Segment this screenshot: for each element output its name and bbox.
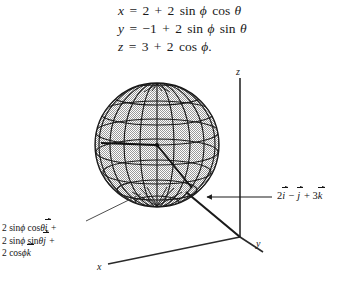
left-line2-plus: + — [49, 236, 54, 246]
sphere-center-dot — [155, 143, 159, 147]
left-annotation-line-3: 2 cosϕk — [2, 247, 56, 260]
left-line1-coefficient: 2 — [2, 223, 7, 233]
left-line1-plus: + — [51, 223, 56, 233]
z-axis-label: z — [236, 66, 240, 77]
left-line3-cos: cos — [9, 248, 22, 258]
right-minus: − — [289, 190, 295, 201]
y-axis-label: y — [256, 238, 260, 249]
x-axis — [108, 237, 240, 264]
left-line1-cos: cos — [28, 223, 41, 233]
left-line1-phi: ϕ — [20, 223, 25, 233]
right-plus: + — [304, 190, 310, 201]
left-line3-coefficient: 2 — [2, 248, 7, 258]
wireframe-sphere — [95, 83, 219, 208]
position-vector — [186, 192, 240, 237]
k-hat-icon: k — [27, 247, 32, 260]
right-annotation: 2i − j + 3k — [277, 190, 323, 203]
i-hat-icon-right: i — [282, 190, 286, 203]
j-hat-icon-right: j — [297, 190, 301, 203]
left-line1-sin: sin — [9, 223, 20, 233]
left-line2-coefficient: 2 — [2, 236, 7, 246]
left-annotation: 2 sinϕ cosθi + 2 sinϕ sinθj + 2 cosϕk — [2, 222, 56, 260]
x-axis-label: x — [97, 261, 101, 272]
parametric-sphere-figure: x = 2 + 2 sin ϕ cos θ y = −1 + 2 sin ϕ s… — [0, 0, 341, 281]
j-hat-icon: j — [43, 235, 47, 248]
left-line2-phi: ϕ — [20, 236, 25, 246]
left-annotation-leader — [86, 194, 141, 221]
position-vector-line — [186, 192, 240, 237]
left-line2-sin-phi: sin — [9, 236, 20, 246]
k-hat-icon-right: k — [318, 190, 324, 203]
